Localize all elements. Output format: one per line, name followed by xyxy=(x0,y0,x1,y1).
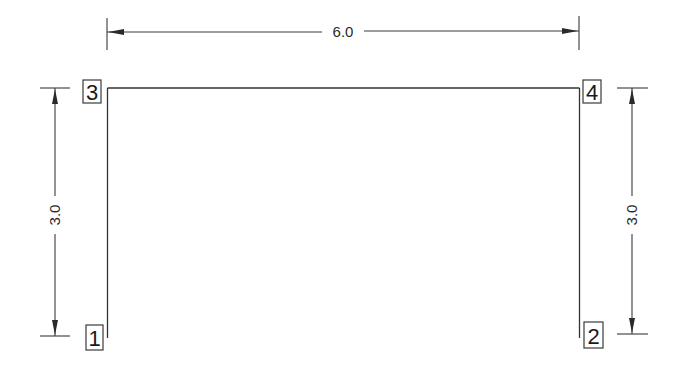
node-3: 3 xyxy=(83,80,101,105)
left-dimension-label: 3.0 xyxy=(46,205,63,226)
left-dimension: 3.0 xyxy=(40,88,70,336)
right-dimension-label: 3.0 xyxy=(623,205,640,226)
arrowhead-down-icon xyxy=(629,318,635,333)
arrowhead-left-icon xyxy=(108,29,124,35)
node-1: 1 xyxy=(86,325,103,351)
node-4-label: 4 xyxy=(586,80,598,105)
arrowhead-up-icon xyxy=(52,89,58,104)
arrowhead-down-icon xyxy=(52,320,58,335)
top-dimension: 6.0 xyxy=(107,16,579,50)
node-2-label: 2 xyxy=(587,324,599,349)
arrowhead-up-icon xyxy=(629,89,635,104)
right-dimension: 3.0 xyxy=(617,88,648,334)
top-dimension-label: 6.0 xyxy=(333,23,354,40)
frame-diagram: 6.0 3.0 3.0 3 4 1 2 xyxy=(0,0,680,374)
node-2: 2 xyxy=(584,322,603,349)
frame-members xyxy=(108,88,580,338)
arrowhead-right-icon xyxy=(562,28,578,34)
node-3-label: 3 xyxy=(86,80,98,105)
node-1-label: 1 xyxy=(88,326,100,351)
node-4: 4 xyxy=(583,80,601,105)
